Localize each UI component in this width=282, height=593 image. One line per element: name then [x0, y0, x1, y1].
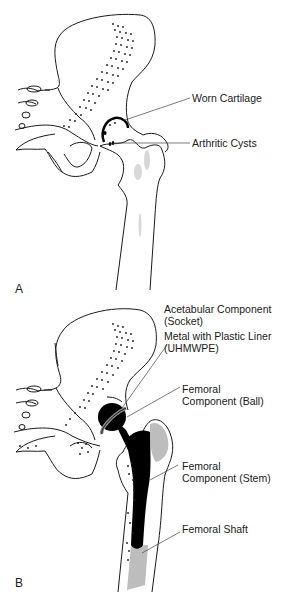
panel-letter-b: B	[15, 576, 23, 590]
label-femoral-ball: Femoral Component (Ball)	[182, 383, 264, 407]
label-acetabular-line1: Acetabular Component	[164, 303, 271, 315]
label-femoral-stem: Femoral Component (Stem)	[182, 460, 271, 484]
label-stem-line1: Femoral	[182, 460, 271, 472]
trochanter-cancellous	[150, 423, 168, 462]
ilium-b-outline	[62, 309, 156, 410]
label-acetabular-line2: (Socket)	[164, 315, 271, 327]
label-liner-line1: Metal with Plastic Liner	[164, 330, 271, 342]
ilium-b-stipple	[19, 323, 134, 455]
label-ball-line2: Component (Ball)	[182, 395, 264, 407]
femur-a-cancellous	[134, 150, 150, 237]
label-stem-line2: Component (Stem)	[182, 472, 271, 484]
label-arthritic-cysts: Arthritic Cysts	[192, 137, 257, 149]
worn-cartilage	[103, 118, 128, 142]
label-worn-cartilage: Worn Cartilage	[192, 92, 262, 104]
femur-a-outline	[100, 140, 165, 290]
panel-letter-a: A	[15, 282, 23, 296]
hip-replacement-figure: Worn Cartilage Arthritic Cysts A Acetabu…	[0, 0, 282, 593]
panel-a-drawing	[0, 0, 282, 593]
ilium-outline	[60, 14, 168, 152]
label-liner-line2: (UHMWPE)	[164, 342, 271, 354]
label-acetabular-component: Acetabular Component (Socket)	[164, 303, 271, 327]
label-metal-plastic-liner: Metal with Plastic Liner (UHMWPE)	[164, 330, 271, 354]
label-femoral-shaft: Femoral Shaft	[182, 523, 248, 535]
label-ball-line1: Femoral	[182, 383, 264, 395]
